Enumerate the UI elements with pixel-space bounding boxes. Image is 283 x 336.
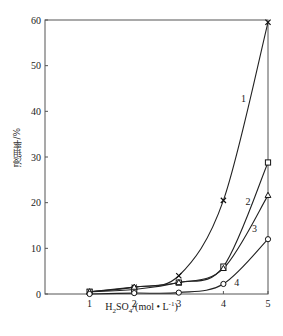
y-tick-label: 10 [31,243,41,254]
circle-marker-icon [221,281,226,286]
x-axis-label: H2SO4/(mol • L-1) [0,300,283,315]
y-tick-label: 60 [31,15,41,26]
y-tick-label: 30 [31,152,41,163]
circle-marker-icon [265,237,270,242]
y-tick-label: 50 [31,60,41,71]
circle-marker-icon [176,290,181,295]
curve-3 [90,195,268,291]
y-tick-label: 20 [31,197,41,208]
x-marker-icon [221,198,226,203]
circle-marker-icon [87,291,92,296]
curve-2 [90,162,268,291]
curve-4 [90,239,268,294]
x-axis-label-unit: /(mol • L [132,301,168,312]
circle-marker-icon [132,290,137,295]
curve-number-label: 2 [245,196,250,207]
x-marker-icon [176,273,181,278]
x-axis-label-so: SO [116,301,129,312]
x-axis-label-close: ) [174,301,177,312]
square-marker-icon [265,160,270,165]
curve-1 [90,22,268,291]
triangle-marker-icon [265,192,271,197]
curve-number-label: 4 [234,277,239,288]
curve-number-label: 3 [252,223,257,234]
y-tick-label: 40 [31,106,41,117]
y-tick-label: 0 [36,289,41,300]
curve-number-label: 1 [241,93,246,104]
y-axis-label: 浸钼率/% [12,128,26,167]
chart-canvas: 0102030405060123451234 [0,0,283,336]
